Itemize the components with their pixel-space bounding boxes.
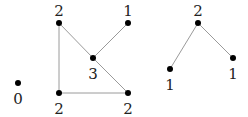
node-iso bbox=[15, 80, 21, 86]
node-a bbox=[56, 20, 62, 26]
node-e bbox=[125, 90, 131, 96]
labels-layer: 021322211 bbox=[13, 2, 238, 117]
node-c bbox=[90, 55, 96, 61]
node-degree-label: 1 bbox=[228, 65, 238, 83]
node-d bbox=[56, 90, 62, 96]
nodes-layer bbox=[15, 20, 236, 96]
node-h bbox=[230, 55, 236, 61]
node-f bbox=[195, 20, 201, 26]
node-degree-label: 0 bbox=[13, 90, 23, 108]
node-degree-label: 2 bbox=[54, 2, 64, 20]
edges-layer bbox=[59, 23, 233, 93]
node-b bbox=[125, 20, 131, 26]
edge-c-e bbox=[93, 58, 128, 93]
graph-svg: 021322211 bbox=[0, 0, 248, 117]
graph-diagram: 021322211 bbox=[0, 0, 248, 117]
edge-f-g bbox=[170, 23, 198, 69]
node-degree-label: 3 bbox=[88, 65, 98, 83]
edge-c-b bbox=[93, 23, 128, 58]
edge-a-c bbox=[59, 23, 93, 58]
node-degree-label: 2 bbox=[193, 2, 203, 20]
node-degree-label: 1 bbox=[123, 2, 133, 20]
node-g bbox=[167, 66, 173, 72]
node-degree-label: 1 bbox=[165, 76, 175, 94]
node-degree-label: 2 bbox=[123, 100, 133, 117]
node-degree-label: 2 bbox=[54, 100, 64, 117]
edge-f-h bbox=[198, 23, 233, 58]
